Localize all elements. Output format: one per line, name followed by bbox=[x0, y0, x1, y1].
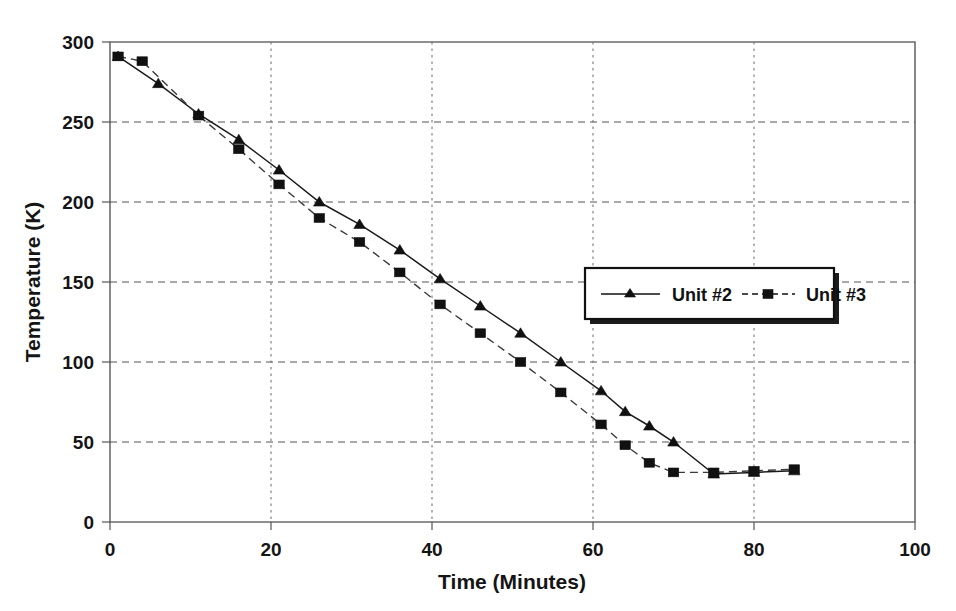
legend-label-unit-3: Unit #3 bbox=[806, 285, 866, 305]
y-tick-label: 100 bbox=[62, 352, 94, 373]
data-point-triangle bbox=[233, 134, 245, 143]
y-tick-label: 250 bbox=[62, 112, 94, 133]
data-point-square bbox=[709, 468, 719, 477]
y-tick-label: 300 bbox=[62, 32, 94, 53]
temperature-time-chart: 050100150200250300 020406080100 Temperat… bbox=[0, 0, 956, 611]
data-point-triangle bbox=[668, 437, 680, 446]
data-point-triangle bbox=[434, 273, 446, 282]
x-axis-tick-labels: 020406080100 bbox=[105, 539, 931, 560]
x-tick-label: 60 bbox=[582, 539, 603, 560]
data-point-square bbox=[789, 465, 799, 474]
data-point-triangle bbox=[475, 301, 487, 310]
y-axis-tick-labels: 050100150200250300 bbox=[62, 32, 94, 533]
y-tick-label: 50 bbox=[73, 432, 94, 453]
series-line-2 bbox=[118, 56, 794, 472]
data-point-square bbox=[314, 214, 324, 223]
data-point-square bbox=[234, 145, 244, 154]
data-point-square bbox=[644, 458, 654, 467]
series-line-1 bbox=[118, 56, 794, 474]
chart-container: 050100150200250300 020406080100 Temperat… bbox=[0, 0, 956, 611]
data-point-triangle bbox=[354, 219, 366, 228]
data-point-square bbox=[668, 468, 678, 477]
y-tick-label: 200 bbox=[62, 192, 94, 213]
data-point-square bbox=[435, 300, 445, 309]
data-point-square bbox=[137, 57, 147, 66]
y-axis-title: Temperature (K) bbox=[21, 202, 44, 363]
square-marker bbox=[763, 290, 773, 299]
x-tick-label: 40 bbox=[421, 539, 442, 560]
x-tick-label: 100 bbox=[899, 539, 931, 560]
data-point-square bbox=[193, 111, 203, 120]
data-point-square bbox=[274, 180, 284, 189]
y-axis-tick-marks bbox=[102, 42, 110, 522]
data-point-square bbox=[749, 466, 759, 475]
x-tick-label: 0 bbox=[105, 539, 116, 560]
data-point-triangle bbox=[644, 421, 656, 430]
data-point-square bbox=[395, 268, 405, 277]
series-lines bbox=[118, 56, 794, 474]
series-markers bbox=[112, 51, 800, 478]
data-point-square bbox=[556, 388, 566, 397]
legend-label-unit-2: Unit #2 bbox=[672, 285, 732, 305]
data-point-triangle bbox=[515, 328, 527, 337]
data-point-square bbox=[354, 238, 364, 247]
data-point-triangle bbox=[153, 78, 165, 87]
data-point-square bbox=[620, 441, 630, 450]
x-tick-label: 20 bbox=[260, 539, 281, 560]
data-point-triangle bbox=[394, 245, 406, 254]
x-tick-label: 80 bbox=[743, 539, 764, 560]
x-axis-title: Time (Minutes) bbox=[438, 570, 586, 593]
data-point-square bbox=[515, 358, 525, 367]
y-tick-label: 150 bbox=[62, 272, 94, 293]
data-point-triangle bbox=[555, 357, 567, 366]
chart-legend[interactable]: Unit #2 Unit #3 bbox=[585, 268, 866, 324]
y-tick-label: 0 bbox=[83, 512, 94, 533]
data-point-square bbox=[113, 52, 123, 61]
data-point-triangle bbox=[595, 385, 607, 394]
data-point-square bbox=[596, 420, 606, 429]
data-point-square bbox=[475, 329, 485, 338]
x-axis-tick-marks bbox=[110, 522, 915, 530]
